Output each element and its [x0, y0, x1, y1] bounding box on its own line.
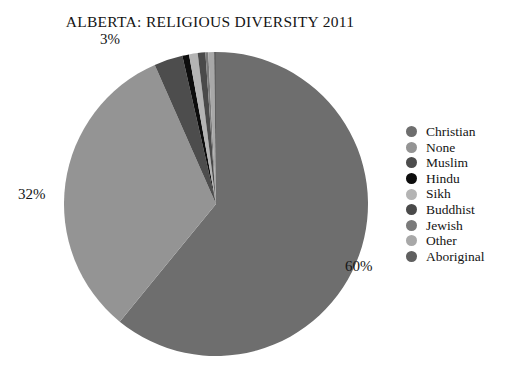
legend-swatch-icon	[406, 251, 417, 262]
data-label-none: 32%	[18, 186, 46, 203]
legend-item-label: Christian	[426, 124, 476, 140]
legend-item[interactable]: Jewish	[406, 218, 516, 234]
legend-swatch-icon	[406, 157, 417, 168]
legend-swatch-icon	[406, 220, 417, 231]
legend-item-label: Buddhist	[426, 202, 475, 218]
legend-item[interactable]: Christian	[406, 124, 516, 140]
pie-chart-figure: ALBERTA: RELIGIOUS DIVERSITY 2011 60% 32…	[0, 0, 520, 387]
legend-item-label: Muslim	[426, 155, 468, 171]
legend-item[interactable]: Aboriginal	[406, 249, 516, 265]
legend-swatch-icon	[406, 204, 417, 215]
legend-item[interactable]: Muslim	[406, 155, 516, 171]
legend-swatch-icon	[406, 235, 417, 246]
legend-item[interactable]: Hindu	[406, 171, 516, 187]
legend-item-label: Other	[426, 233, 457, 249]
legend-swatch-icon	[406, 173, 417, 184]
legend-item-label: Hindu	[426, 171, 460, 187]
legend-swatch-icon	[406, 142, 417, 153]
pie-plot-area	[64, 52, 368, 356]
chart-legend: ChristianNoneMuslimHinduSikhBuddhistJewi…	[406, 124, 516, 264]
legend-item[interactable]: Other	[406, 233, 516, 249]
legend-item[interactable]: Buddhist	[406, 202, 516, 218]
legend-item-label: None	[426, 140, 455, 156]
pie-slice-group	[64, 52, 368, 356]
legend-item-label: Aboriginal	[426, 249, 485, 265]
data-label-muslim: 3%	[100, 31, 120, 48]
legend-item[interactable]: None	[406, 140, 516, 156]
legend-item[interactable]: Sikh	[406, 186, 516, 202]
data-label-christian: 60%	[345, 258, 373, 275]
legend-item-label: Jewish	[426, 218, 463, 234]
chart-title: ALBERTA: RELIGIOUS DIVERSITY 2011	[0, 13, 420, 31]
pie-svg	[64, 52, 368, 356]
legend-swatch-icon	[406, 126, 417, 137]
legend-swatch-icon	[406, 189, 417, 200]
legend-item-label: Sikh	[426, 186, 451, 202]
